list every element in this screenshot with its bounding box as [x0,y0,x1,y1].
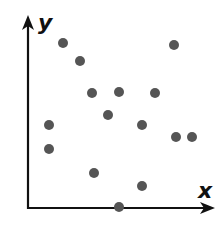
data-point [103,110,113,120]
data-point [44,120,54,130]
data-point [187,132,197,142]
data-point [169,40,179,50]
scatter-plot [0,0,223,229]
y-axis-label: y [38,12,52,34]
data-point [150,88,160,98]
data-point [75,56,85,66]
data-point [89,168,99,178]
data-point [114,87,124,97]
data-point [171,132,181,142]
data-point [137,120,147,130]
data-point [114,202,124,212]
x-axis-label: x [198,180,212,202]
data-point [44,144,54,154]
data-points [44,38,197,212]
data-point [137,181,147,191]
data-point [58,38,68,48]
y-axis [22,15,34,209]
data-point [87,88,97,98]
